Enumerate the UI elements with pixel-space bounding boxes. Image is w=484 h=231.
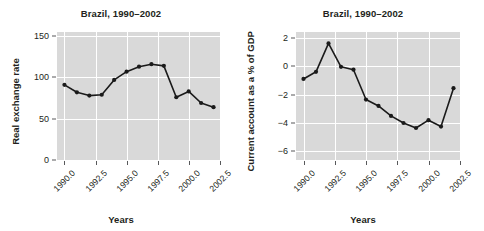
x-tick-mark — [64, 161, 65, 165]
data-series-line — [296, 32, 461, 160]
y-tick-label: 50 — [39, 114, 49, 124]
y-axis-title-left: Real exchange rate — [10, 40, 21, 164]
data-point-marker — [314, 70, 318, 74]
y-tick-mark — [52, 36, 56, 37]
y-tick-mark — [52, 160, 56, 161]
data-point-marker — [211, 105, 215, 109]
data-point-marker — [351, 68, 355, 72]
figure-two-panel-line-charts: Brazil, 1990–2002 Real exchange rate 050… — [0, 0, 484, 231]
data-point-marker — [137, 65, 141, 69]
data-point-marker — [87, 93, 91, 97]
panel-current-account: Brazil, 1990–2002 Current account as a %… — [242, 0, 484, 231]
x-tick-mark — [429, 161, 430, 165]
x-tick-mark — [397, 161, 398, 165]
data-point-marker — [112, 78, 116, 82]
x-tick-mark — [127, 161, 128, 165]
y-tick-label: −2 — [278, 90, 288, 100]
data-point-marker — [401, 121, 405, 125]
y-tick-mark — [291, 123, 295, 124]
data-point-marker — [187, 89, 191, 93]
data-point-marker — [451, 86, 455, 90]
panel-title-right: Brazil, 1990–2002 — [242, 8, 484, 19]
y-tick-label: 2 — [283, 33, 288, 43]
y-axis-title-right: Current account as a % of GDP — [245, 32, 256, 172]
y-tick-mark — [291, 151, 295, 152]
y-tick-label: 0 — [283, 61, 288, 71]
x-tick-mark — [304, 161, 305, 165]
y-tick-mark — [291, 94, 295, 95]
panel-real-exchange-rate: Brazil, 1990–2002 Real exchange rate 050… — [0, 0, 242, 231]
y-tick-label: −4 — [278, 118, 288, 128]
x-tick-mark — [158, 161, 159, 165]
data-point-marker — [339, 65, 343, 69]
data-point-marker — [301, 77, 305, 81]
data-point-marker — [199, 101, 203, 105]
y-tick-mark — [291, 37, 295, 38]
y-tick-mark — [52, 118, 56, 119]
x-tick-mark — [460, 161, 461, 165]
data-point-marker — [75, 90, 79, 94]
data-point-marker — [100, 93, 104, 97]
data-point-marker — [62, 83, 66, 87]
x-axis-title-left: Years — [0, 214, 242, 225]
y-tick-label: 150 — [34, 31, 49, 41]
y-tick-mark — [52, 77, 56, 78]
y-tick-label: 0 — [44, 155, 49, 165]
data-point-marker — [439, 124, 443, 128]
x-tick-mark — [366, 161, 367, 165]
x-tick-mark — [335, 161, 336, 165]
plot-area-left: 0501001501990.01992.51995.01997.52000.02… — [57, 32, 221, 160]
data-point-marker — [389, 114, 393, 118]
data-point-marker — [364, 97, 368, 101]
panel-title-left: Brazil, 1990–2002 — [0, 8, 242, 19]
data-point-marker — [376, 104, 380, 108]
data-series-line — [57, 32, 221, 160]
data-point-marker — [124, 70, 128, 74]
x-axis-title-right: Years — [242, 214, 484, 225]
data-point-marker — [162, 64, 166, 68]
y-tick-label: 100 — [34, 72, 49, 82]
data-point-marker — [326, 41, 330, 45]
data-point-marker — [414, 126, 418, 130]
gridline-horizontal — [57, 160, 221, 161]
y-tick-label: −6 — [278, 146, 288, 156]
data-point-marker — [426, 118, 430, 122]
x-tick-mark — [96, 161, 97, 165]
x-tick-mark — [189, 161, 190, 165]
y-tick-mark — [291, 66, 295, 67]
x-tick-mark — [220, 161, 221, 165]
data-point-marker — [149, 62, 153, 66]
plot-area-right: 20−2−4−61990.01992.51995.01997.52000.020… — [296, 32, 461, 160]
data-point-marker — [174, 95, 178, 99]
